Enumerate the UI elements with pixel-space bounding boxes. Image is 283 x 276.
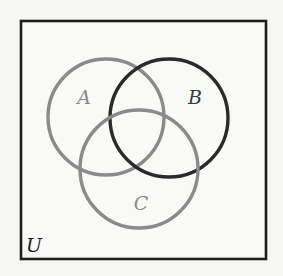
set-b-label: B [187,86,202,108]
venn-diagram: A B C U [0,0,283,276]
universe-label: U [26,234,43,256]
universe-box [21,21,266,259]
set-a-label: A [75,86,91,108]
set-c-label: C [134,192,149,214]
venn-svg: A B C U [0,0,283,276]
